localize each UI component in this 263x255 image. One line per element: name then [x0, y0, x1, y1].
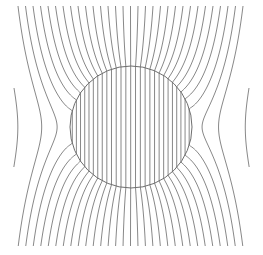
field-line [18, 6, 42, 246]
field-line [48, 6, 81, 246]
field-line [168, 6, 190, 246]
field-line [123, 6, 126, 246]
field-line [145, 6, 153, 246]
field-line [189, 6, 228, 246]
field-lines [14, 6, 249, 246]
field-line [108, 6, 116, 246]
field-line [181, 6, 213, 246]
field-line-partial [245, 88, 249, 167]
field-line [159, 6, 175, 246]
field-line [41, 6, 77, 246]
field-line [164, 6, 183, 246]
field-line [136, 6, 138, 246]
field-line-partial [14, 88, 18, 167]
field-line [86, 6, 103, 246]
field-line-diagram [0, 0, 263, 255]
field-line [71, 6, 94, 246]
field-lines-canvas [0, 0, 263, 255]
field-line [33, 6, 72, 246]
